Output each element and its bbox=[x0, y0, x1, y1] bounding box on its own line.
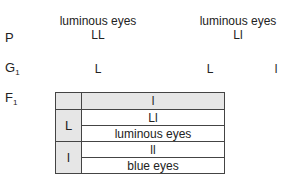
parents-label: P bbox=[5, 32, 14, 44]
gamete-right-1: L bbox=[207, 63, 214, 75]
genotype-cell: Ll bbox=[82, 110, 225, 126]
header-gamete: l bbox=[82, 93, 225, 110]
f1-label: F1 bbox=[5, 92, 17, 109]
genotype-cell: ll bbox=[82, 142, 225, 158]
row-gamete-L: L bbox=[56, 110, 82, 142]
corner-cell bbox=[56, 93, 82, 110]
gametes-label: G1 bbox=[5, 62, 20, 79]
gamete-right-2: l bbox=[275, 63, 278, 75]
row-gamete-l: l bbox=[56, 142, 82, 174]
parent-right-genotype: Ll bbox=[233, 29, 242, 41]
phenotype-cell: blue eyes bbox=[82, 158, 225, 174]
parent-left-phenotype: luminous eyes bbox=[60, 15, 137, 27]
parent-right-phenotype: luminous eyes bbox=[200, 15, 277, 27]
gamete-left-1: L bbox=[95, 63, 102, 75]
phenotype-cell: luminous eyes bbox=[82, 126, 225, 142]
punnett-square: l L Ll luminous eyes l ll blue eyes bbox=[55, 92, 225, 174]
parent-left-genotype: LL bbox=[91, 29, 104, 41]
